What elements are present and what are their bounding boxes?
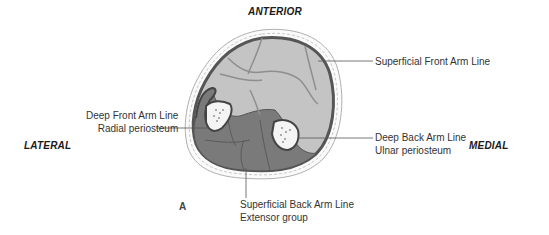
callout-line-1: Deep Back Arm Line — [375, 131, 466, 144]
callout-deep-front-arm-line: Deep Front Arm Line Radial periosteum — [86, 109, 178, 135]
callout-line-1: Deep Front Arm Line — [86, 109, 178, 122]
callout-line-1: Superficial Back Arm Line — [240, 198, 354, 211]
callout-line-1: Superficial Front Arm Line — [375, 55, 490, 68]
callout-superficial-front-arm-line: Superficial Front Arm Line — [375, 55, 490, 68]
callout-line-2: Radial periosteum — [86, 122, 178, 135]
callout-deep-back-arm-line: Deep Back Arm Line Ulnar periosteum — [375, 131, 466, 157]
callout-line-2: Extensor group — [240, 211, 354, 224]
panel-letter: A — [179, 200, 186, 213]
callout-line-2: Ulnar periosteum — [375, 144, 466, 157]
callout-superficial-back-arm-line: Superficial Back Arm Line Extensor group — [240, 198, 354, 224]
